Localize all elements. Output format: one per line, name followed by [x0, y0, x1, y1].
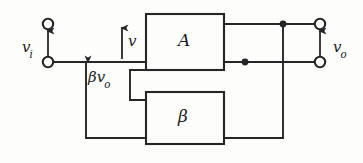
label-output-voltage: vo: [333, 40, 348, 58]
output-terminal-top: [315, 19, 325, 29]
label-feedback-block: β: [178, 108, 188, 125]
amplifier-out-node-dot: [242, 59, 249, 66]
figure-canvas: vi v βvo vo A β: [0, 0, 363, 163]
input-terminal-bottom: [43, 57, 53, 67]
wire-amp-lower-left-stub: [130, 70, 146, 100]
output-top-node-dot: [280, 21, 287, 28]
label-amplifier-block: A: [178, 32, 190, 49]
label-net-input-voltage: v: [128, 34, 136, 49]
circuit-diagram: [0, 0, 363, 163]
input-terminal-top: [43, 19, 53, 29]
label-input-voltage: vi: [22, 40, 34, 58]
output-terminal-bottom: [315, 57, 325, 67]
label-feedback-voltage: βvo: [88, 70, 111, 88]
